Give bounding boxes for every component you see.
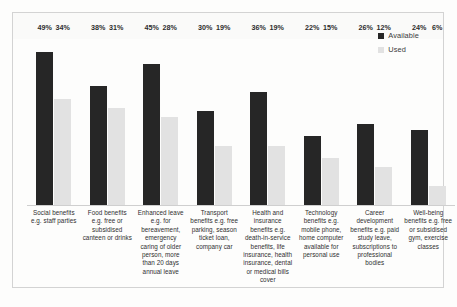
bar-available: 26% bbox=[357, 124, 374, 205]
category-label: Enhanced leave e.g. for bereavement, eme… bbox=[134, 209, 188, 276]
bar-group: 26%12% bbox=[348, 33, 402, 205]
bar-wrapper: 12% bbox=[375, 33, 392, 205]
bar-value-label: 34% bbox=[56, 24, 70, 32]
bar-value-label: 31% bbox=[109, 24, 123, 32]
bar-value-label: 19% bbox=[216, 24, 230, 32]
bar-group: 30%19% bbox=[188, 33, 242, 205]
category-label: Technology benefits e.g. mobile phone, h… bbox=[295, 209, 349, 259]
bar-chart-figure: Available Used 49%34%38%31%45%28%30%19%3… bbox=[0, 0, 457, 307]
bar-value-label: 38% bbox=[91, 24, 105, 32]
bar-wrapper: 28% bbox=[161, 33, 178, 205]
bar-available: 24% bbox=[411, 130, 428, 205]
category-label: Food benefits e.g. free or subsidised ca… bbox=[81, 209, 135, 243]
bar-group: 22%15% bbox=[295, 33, 349, 205]
bar-group: 36%19% bbox=[241, 33, 295, 205]
bar-wrapper: 36% bbox=[250, 33, 267, 205]
bar-group: 38%31% bbox=[81, 33, 135, 205]
bar-wrapper: 49% bbox=[36, 33, 53, 205]
bar-value-label: 12% bbox=[377, 24, 391, 32]
bar-used: 28% bbox=[161, 117, 178, 205]
bar-wrapper: 6% bbox=[429, 33, 446, 205]
bar-wrapper: 30% bbox=[197, 33, 214, 205]
bar-wrapper: 31% bbox=[108, 33, 125, 205]
bar-used: 19% bbox=[268, 146, 285, 205]
bar-wrapper: 19% bbox=[268, 33, 285, 205]
bar-available: 36% bbox=[250, 92, 267, 205]
category-label: Social benefits e.g. staff parties bbox=[27, 209, 81, 226]
bar-value-label: 19% bbox=[270, 24, 284, 32]
bar-available: 30% bbox=[197, 111, 214, 205]
category-axis-labels: Social benefits e.g. staff partiesFood b… bbox=[27, 209, 455, 285]
category-label: Health and insurance benefits e.g. death… bbox=[241, 209, 295, 285]
bar-value-label: 6% bbox=[432, 24, 442, 32]
bar-used: 15% bbox=[322, 158, 339, 205]
bar-value-label: 15% bbox=[323, 24, 337, 32]
bar-value-label: 22% bbox=[305, 24, 319, 32]
bar-value-label: 24% bbox=[412, 24, 426, 32]
bar-value-label: 28% bbox=[163, 24, 177, 32]
bar-wrapper: 19% bbox=[215, 33, 232, 205]
bar-wrapper: 24% bbox=[411, 33, 428, 205]
bar-used: 12% bbox=[375, 167, 392, 205]
bar-available: 22% bbox=[304, 136, 321, 205]
category-label: Career development benefits e.g. paid st… bbox=[348, 209, 402, 268]
bar-value-label: 36% bbox=[252, 24, 266, 32]
bar-used: 31% bbox=[108, 108, 125, 205]
bar-groups: 49%34%38%31%45%28%30%19%36%19%22%15%26%1… bbox=[27, 33, 455, 205]
x-axis-baseline bbox=[27, 205, 455, 206]
bar-wrapper: 22% bbox=[304, 33, 321, 205]
bar-group: 45%28% bbox=[134, 33, 188, 205]
bar-group: 49%34% bbox=[27, 33, 81, 205]
bar-available: 45% bbox=[143, 64, 160, 205]
chart-frame: Available Used 49%34%38%31%45%28%30%19%3… bbox=[12, 12, 444, 288]
bar-used: 19% bbox=[215, 146, 232, 205]
bar-available: 38% bbox=[90, 86, 107, 205]
bar-value-label: 45% bbox=[145, 24, 159, 32]
bar-value-label: 26% bbox=[359, 24, 373, 32]
bar-wrapper: 38% bbox=[90, 33, 107, 205]
bar-value-label: 30% bbox=[198, 24, 212, 32]
bar-wrapper: 34% bbox=[54, 33, 71, 205]
bar-used: 6% bbox=[429, 186, 446, 205]
bar-used: 34% bbox=[54, 99, 71, 205]
category-label: Well-being benefits e.g. free or subsidi… bbox=[402, 209, 456, 251]
bar-available: 49% bbox=[36, 52, 53, 205]
bar-group: 24%6% bbox=[402, 33, 456, 205]
category-label: Transport benefits e.g. free parking, se… bbox=[188, 209, 242, 251]
bar-value-label: 49% bbox=[38, 24, 52, 32]
bar-wrapper: 45% bbox=[143, 33, 160, 205]
bar-wrapper: 26% bbox=[357, 33, 374, 205]
bar-wrapper: 15% bbox=[322, 33, 339, 205]
